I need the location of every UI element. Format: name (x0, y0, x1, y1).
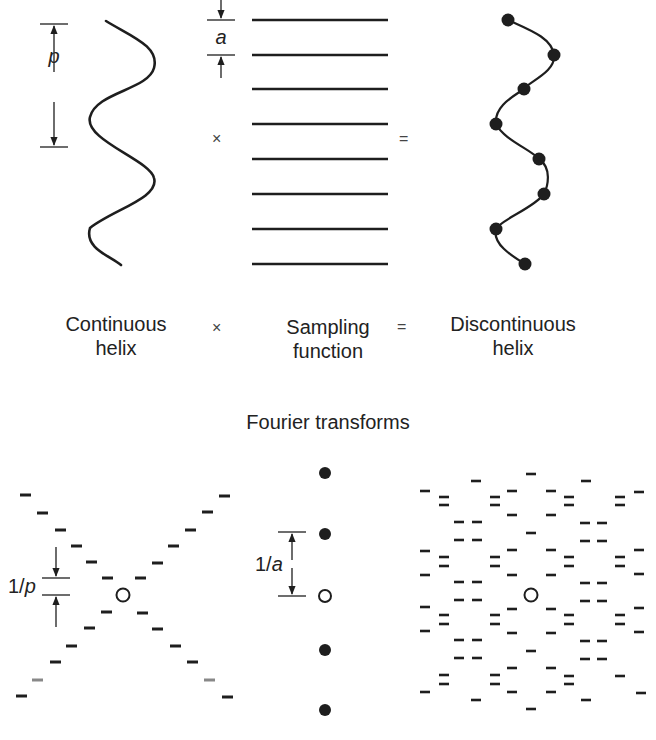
multiply-operator-caption: × (212, 319, 221, 337)
equals-operator-caption: = (397, 318, 406, 336)
spacing-label: a (211, 25, 231, 49)
helix-transform-layer-lines (16, 495, 233, 697)
discontinuous-transform-layer-lines (420, 474, 646, 709)
label-var: a (272, 553, 283, 575)
helix-transform-label: 1/p (8, 574, 36, 598)
origin-marker-helix (117, 589, 130, 602)
caption-line: helix (438, 336, 588, 360)
discontinuous-helix-caption: Discontinuous helix (438, 312, 588, 360)
label-var: p (25, 575, 36, 597)
continuous-helix-caption: Continuous helix (46, 312, 186, 360)
sampling-lines (252, 20, 388, 264)
origin-marker-sampling (319, 590, 331, 602)
origin-marker-discontinuous (525, 589, 538, 602)
caption-line: helix (46, 336, 186, 360)
caption-line: Discontinuous (438, 312, 588, 336)
label-prefix: 1/ (255, 553, 272, 575)
caption-line: function (258, 339, 398, 363)
multiply-operator-top: × (212, 130, 221, 148)
pitch-label: p (44, 44, 64, 68)
pitch-dimension (40, 24, 68, 147)
caption-line: Sampling (258, 315, 398, 339)
label-prefix: 1/ (8, 575, 25, 597)
figure-canvas (0, 0, 656, 740)
equals-operator-top: = (399, 130, 408, 148)
sampling-function-caption: Sampling function (258, 315, 398, 363)
section-title: Fourier transforms (200, 410, 456, 434)
sampling-transform-label: 1/a (255, 552, 283, 576)
helix-transform-dimension (42, 547, 70, 627)
discontinuous-helix-curve (495, 20, 554, 264)
continuous-helix-curve (89, 21, 155, 265)
sample-points (490, 14, 561, 271)
caption-line: Continuous (46, 312, 186, 336)
